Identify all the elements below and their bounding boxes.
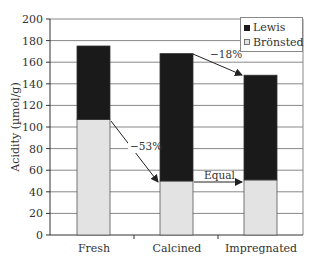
bar-segment-bronsted [244,180,277,235]
legend-swatch-bronsted [245,40,250,45]
y-tick-label: 0 [36,229,43,242]
y-tick-label: 100 [22,121,43,134]
x-tick-label-impregnated: Impregnated [225,242,297,255]
legend-label-lewis: Lewis [253,21,286,34]
y-tick-label: 160 [22,56,43,69]
y-tick-label: 80 [29,143,43,156]
y-tick-labels: 200 180 160 140 120 100 80 60 40 20 0 [22,13,43,242]
bar-segment-bronsted [160,181,193,235]
y-tick-label: 180 [22,35,43,48]
bar-fresh [77,46,110,235]
y-tick-label: 120 [22,99,43,112]
legend: Lewis Brönsted [241,18,304,52]
y-tick-label: 20 [29,207,43,220]
annotation-minus-18: −18% [210,48,242,60]
stacked-bar-chart: 200 180 160 140 120 100 80 60 40 20 0 Ac… [0,0,317,265]
x-tick-labels: Fresh Calcined Impregnated [78,242,297,255]
x-tick-label-fresh: Fresh [78,242,110,255]
bar-segment-bronsted [77,119,110,235]
annotation-minus-53: −53% [130,140,162,152]
annotation-equal: Equal [204,169,235,181]
bar-calcined [160,54,193,235]
y-tick-label: 140 [22,78,43,91]
bar-segment-lewis [244,75,277,180]
bar-impregnated [244,75,277,235]
bar-segment-lewis [77,46,110,119]
y-tick-label: 60 [29,164,43,177]
legend-swatch-lewis [244,25,250,31]
y-tick-label: 40 [29,186,43,199]
bar-segment-lewis [160,54,193,181]
y-axis-label: Acidity (µmol/g) [9,82,22,172]
x-tick-label-calcined: Calcined [153,242,202,255]
legend-label-bronsted: Brönsted [253,36,304,49]
y-tick-label: 200 [22,13,43,26]
